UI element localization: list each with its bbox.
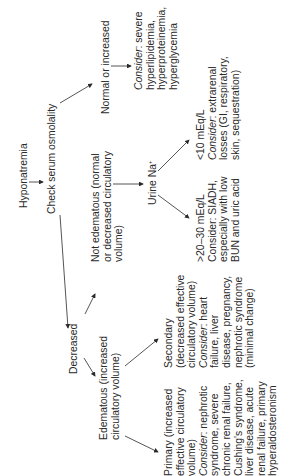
node-text: Secondary bbox=[163, 275, 175, 368]
node-consider-severe: Consider: severe hyperlipidemia, hyperpr… bbox=[133, 7, 179, 90]
arrow-urine-to-lt10 bbox=[158, 140, 189, 171]
node-normal-or-increased: Normal or increased bbox=[100, 20, 112, 114]
arrow-decreased-to-edematous bbox=[84, 358, 95, 376]
node-primary: Primary (increased effective circulatory… bbox=[163, 379, 279, 476]
superscript-plus: + bbox=[147, 160, 153, 164]
consider-label: Consider bbox=[133, 48, 144, 90]
consider-label: Consider bbox=[207, 118, 218, 160]
node-text: Cushing's syndrome, bbox=[233, 379, 245, 476]
node-text: liver disease, acute bbox=[244, 379, 256, 476]
node-text: renal failure, primary bbox=[256, 379, 268, 476]
node-text: effective circulatory bbox=[175, 379, 187, 476]
node-text: syndrome, severe bbox=[209, 379, 221, 476]
arrow-urine-to-gt20 bbox=[158, 195, 189, 218]
arrow-check-to-decreased bbox=[60, 215, 68, 328]
node-edematous: Edematous (increased circulatory volume) bbox=[98, 336, 121, 440]
node-text: hyperaldosteronism bbox=[267, 379, 279, 476]
node-text: skin, sequestration) bbox=[230, 56, 242, 160]
node-text: Hyponatremia bbox=[18, 143, 30, 208]
node-text: volume) bbox=[186, 379, 198, 476]
node-text: volume) bbox=[113, 151, 125, 262]
node-text: : extrarenal bbox=[207, 66, 218, 118]
node-text: Edematous (increased bbox=[98, 336, 110, 440]
node-text: : nephrotic bbox=[198, 386, 209, 435]
node-text: failure, liver bbox=[209, 275, 221, 368]
node-text: chronic renal failure, bbox=[221, 379, 233, 476]
node-text: Normal or increased bbox=[100, 20, 112, 114]
arrow-decreased-to-not-edematous bbox=[85, 294, 95, 314]
consider-label: Consider bbox=[198, 434, 209, 476]
node-text: Check serum osmolality bbox=[46, 104, 58, 214]
node-text: losses (GI, respiratory, bbox=[218, 56, 230, 160]
node-text: BUN and uric acid bbox=[230, 177, 242, 262]
node-text: Consider: SIADH, bbox=[207, 177, 219, 262]
node-urine-na: Urine Na+ bbox=[145, 160, 159, 205]
node-secondary: Secondary (decreased effective circulato… bbox=[163, 275, 256, 368]
node-text: Decreased bbox=[68, 324, 80, 374]
node-text: hyperglycemia bbox=[168, 7, 180, 90]
node-text: Urine Na bbox=[147, 164, 158, 205]
node-hyponatremia: Hyponatremia bbox=[18, 143, 30, 208]
node-text: <10 mEq/L bbox=[195, 56, 207, 160]
consider-label: Consider bbox=[198, 326, 209, 368]
node-check-serum-osmolality: Check serum osmolality bbox=[46, 104, 58, 214]
node-decreased: Decreased bbox=[68, 324, 80, 374]
node-lt10-meq: <10 mEq/L Consider: extrarenal losses (G… bbox=[195, 56, 241, 160]
node-text: hyperlipidemia, bbox=[145, 7, 157, 90]
node-text: circulatory volume) bbox=[110, 336, 122, 440]
node-text: (minimal change) bbox=[244, 275, 256, 368]
node-not-edematous: Not edematous (normal or decreased circu… bbox=[90, 151, 125, 262]
arrow-check-to-normal bbox=[60, 84, 92, 103]
node-text: >20–30 mEq/L bbox=[195, 177, 207, 262]
arrow-edematous-to-secondary bbox=[125, 339, 158, 366]
node-text: Not edematous (normal bbox=[90, 151, 102, 262]
node-text: : heart bbox=[198, 297, 209, 326]
node-text: disease, pregnancy, bbox=[221, 275, 233, 368]
node-text: hyperproteinemia, bbox=[156, 7, 168, 90]
node-text: or decreased circulatory bbox=[102, 151, 114, 262]
node-text: circulatory volume) bbox=[186, 275, 198, 368]
flowchart-canvas: Hyponatremia Check serum osmolality Norm… bbox=[0, 0, 291, 476]
node-text: (decreased effective bbox=[175, 275, 187, 368]
node-text: Primary (increased bbox=[163, 379, 175, 476]
arrow-edematous-to-primary bbox=[125, 436, 158, 452]
node-text: : severe bbox=[133, 11, 144, 48]
node-text: nephrotic syndrome bbox=[233, 275, 245, 368]
node-text: especially with low bbox=[218, 177, 230, 262]
node-gt20-meq: >20–30 mEq/L Consider: SIADH, especially… bbox=[195, 177, 241, 262]
